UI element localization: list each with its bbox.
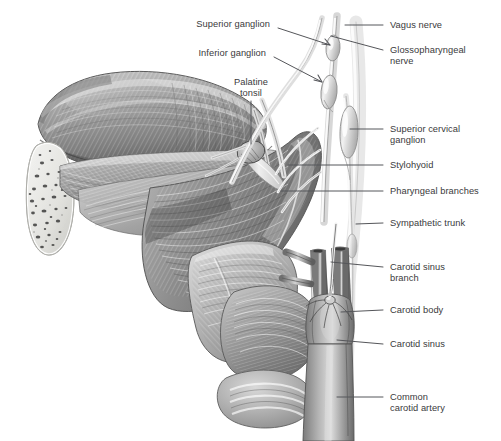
label-stylohyoid: Stylohyoid [390, 160, 500, 171]
illustration-body [0, 16, 359, 441]
label-vagus-nerve: Vagus nerve [390, 20, 500, 31]
mandible-bone-section [26, 142, 74, 255]
label-palatine-tonsil: Palatine tonsil [211, 77, 291, 100]
label-carotid-body: Carotid body [390, 305, 500, 316]
label-superior-cervical-ganglion: Superior cervical ganglion [390, 124, 500, 147]
label-common-carotid-artery: Common carotid artery [390, 392, 500, 415]
label-sympathetic-trunk: Sympathetic trunk [390, 218, 500, 229]
label-glossopharyngeal-nerve: Glossopharyngeal nerve [390, 45, 500, 68]
label-inferior-ganglion: Inferior ganglion [0, 48, 274, 59]
esophagus-trachea [217, 370, 312, 428]
label-carotid-sinus: Carotid sinus [390, 339, 500, 350]
common-carotid-artery [303, 344, 354, 441]
label-pharyngeal-branches: Pharyngeal branches [390, 186, 501, 197]
label-carotid-sinus-branch: Carotid sinus branch [390, 262, 500, 285]
inferior-ganglion [320, 74, 339, 112]
leader-superior-ganglion [278, 28, 330, 45]
label-superior-ganglion: Superior ganglion [0, 19, 278, 30]
superior-ganglion [325, 35, 341, 62]
